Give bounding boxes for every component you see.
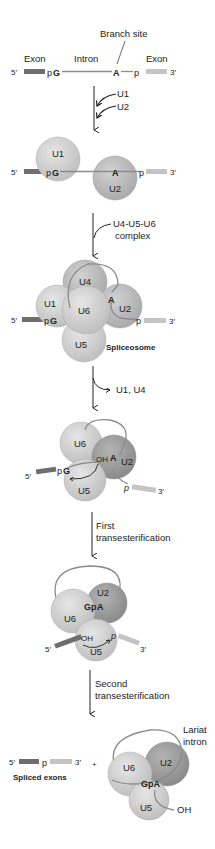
u2-label: U2 [121,456,133,467]
second-label: Second [95,678,127,689]
pre-mrna: Branch site Exon Intron Exon 5′ p G A p … [11,28,176,78]
g-label: G [52,168,59,178]
released-u1-u4-label: U1, U4 [116,384,146,395]
oh-label: OH [177,804,191,815]
complex-label: complex [115,230,151,241]
u1-u2-complex: 5′ U1 p G A U2 p 3′ [11,137,176,200]
g-label: G [50,316,57,326]
a-label: A [110,453,117,463]
gp-label: Gp [84,602,97,612]
p-label: p [46,168,51,178]
spliceosome: 5′ U4 U1 U6 A U2 p G p 3′ U5 Spliceosome [11,260,175,362]
active-spliceosome: U6 OH A U2 5′ p G U5 p 3′ [25,420,164,501]
u2-label: U2 [97,587,109,598]
u4-u5-u6-label: U4-U5-U6 [113,218,156,229]
five-prime-label: 5′ [11,316,17,325]
exon-3-bar [144,318,166,323]
transesterification-label: transesterification [96,532,170,543]
u1-label: U1 [52,148,64,159]
exon-5-bar [24,69,45,74]
arrow-add-u4-u5-u6: U4-U5-U6 complex [93,213,156,256]
five-prime-label: 5′ [45,645,51,654]
three-prime-label: 3′ [170,168,176,177]
three-prime-label: 3′ [170,68,176,77]
exon-3-bar [50,759,72,764]
p-label: p [44,316,49,326]
a-label: A [97,602,104,612]
oh-label: OH [81,634,93,643]
u5-label: U5 [90,646,102,657]
exon-3-bar [146,69,167,74]
five-prime-label: 5′ [11,68,17,77]
branch-site-pointer [117,41,125,64]
gpa-label: GpA [141,779,160,789]
u2-label: U2 [160,757,172,768]
p-label: p [57,466,62,476]
arrow-release-u1-u4: U1, U4 [93,366,146,408]
a-label: A [108,295,115,305]
three-prime-label: 3′ [158,487,164,496]
p3-label: p [136,316,141,326]
u4-label: U4 [79,276,91,287]
intron-label: Intron [74,53,98,64]
arrow-second-transesterification: Second transesterification [90,670,169,714]
u5-label: U5 [78,485,90,496]
spliceosome-diagram: Branch site Exon Intron Exon 5′ p G A p … [0,0,215,849]
exon-5-bar [19,759,39,764]
five-prime-label: 5′ [25,472,31,481]
u5-label: U5 [75,339,87,350]
p-label: p [110,631,116,641]
u6-label: U6 [123,762,135,773]
branch-site-label: Branch site [100,28,148,39]
oh-label: OH [96,455,108,464]
lariat-label: Lariat [183,724,207,735]
spliceosome-caption: Spliceosome [106,343,156,352]
three-prime-label: 3′ [75,758,81,767]
p-label: p [42,758,47,768]
exon-left-label: Exon [24,53,46,64]
arrow-add-u1-u2: U1 U2 [94,86,129,130]
three-prime-label: 3′ [140,645,146,654]
intron-label: intron [183,736,207,747]
u6-label: U6 [74,438,86,449]
u2-label: U2 [109,183,121,194]
g-label: G [63,466,70,476]
p3-label: p [134,68,139,78]
u6-label: U6 [64,613,76,624]
lariat-intermediate: U2 Gp A U6 5′ OH p 3′ U5 [45,566,146,661]
arrow-first-transesterification: First transesterification [92,512,170,556]
five-prime-label: 5′ [9,758,15,767]
exon-3-bar [146,169,167,174]
three-prime-label: 3′ [169,317,175,326]
a-label: A [112,168,119,178]
g-label: G [53,68,60,78]
u6-label: U6 [78,305,90,316]
p-label: p [47,68,52,78]
first-label: First [96,520,115,531]
a-branch-label: A [113,68,120,78]
plus-sign: + [92,760,97,769]
five-prime-label: 5′ [11,168,17,177]
transesterification-label: transesterification [95,690,169,701]
exon-3-bar [132,484,156,492]
p3-label: p [139,168,144,178]
exon-3-bar [118,633,140,645]
spliced-exons-caption: Spliced exons [13,773,67,782]
u5-label: U5 [140,802,152,813]
p3-label: p [123,483,129,493]
spliced-exons: 5′ p 3′ + Spliced exons [9,758,97,782]
exon-5-bar [36,467,57,475]
lariat-intron-complex: Lariat intron U6 U2 GpA U5 OH [108,724,207,820]
exon-right-label: Exon [146,53,168,64]
u2-input-label: U2 [117,101,129,112]
u1-input-label: U1 [117,88,129,99]
u2-label: U2 [119,303,131,314]
u1-label: U1 [44,298,56,309]
